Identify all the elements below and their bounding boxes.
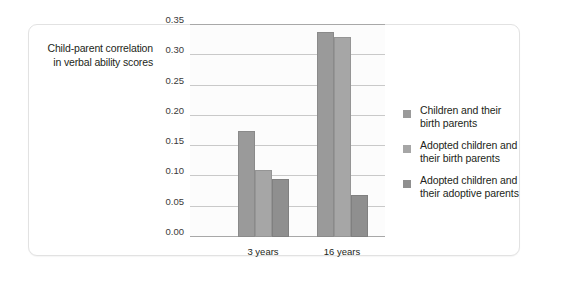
y-axis-tick-label: 0.30 [166, 45, 185, 55]
x-axis-tick-label: 16 years [317, 246, 368, 257]
bar-group: 3 years [238, 25, 289, 237]
bar [317, 32, 334, 237]
y-axis-tick-label: 0.35 [166, 15, 185, 25]
bar [238, 131, 255, 237]
legend-label: their birth parents [420, 152, 543, 165]
legend-swatch-icon [403, 145, 411, 153]
legend-item: Adopted children andtheir birth parents [403, 139, 543, 165]
bar [255, 170, 272, 237]
y-axis-tick-label: 0.05 [166, 197, 185, 207]
plot-area: 0.000.050.100.150.200.250.300.353 years1… [190, 24, 385, 237]
plot-inner: 0.000.050.100.150.200.250.300.353 years1… [190, 25, 385, 237]
bar [272, 179, 289, 237]
y-axis-label-line-1: Child-parent correlation [10, 41, 153, 55]
legend-item: Adopted children andtheir adoptive paren… [403, 174, 543, 200]
legend-swatch-icon [403, 180, 411, 188]
y-axis-tick-label: 0.15 [166, 136, 185, 146]
y-axis-tick-label: 0.00 [166, 227, 185, 237]
legend-item: Children and theirbirth parents [403, 104, 543, 130]
y-axis-label-line-2: in verbal ability scores [10, 55, 153, 69]
chart-legend: Children and theirbirth parentsAdopted c… [403, 104, 543, 209]
bar [351, 195, 368, 237]
legend-label: Children and their [420, 104, 543, 117]
bar [334, 37, 351, 237]
y-axis-tick-label: 0.25 [166, 76, 185, 86]
legend-label: Adopted children and [420, 139, 543, 152]
x-axis-tick-label: 3 years [238, 246, 289, 257]
legend-swatch-icon [403, 110, 411, 118]
bar-group: 16 years [317, 25, 368, 237]
y-axis-label: Child-parent correlation in verbal abili… [10, 41, 153, 69]
figure-root: Child-parent correlation in verbal abili… [0, 0, 561, 281]
legend-label: Adopted children and [420, 174, 543, 187]
legend-label: birth parents [420, 117, 543, 130]
y-axis-tick-label: 0.10 [166, 166, 185, 176]
y-axis-tick-label: 0.20 [166, 106, 185, 116]
legend-label: their adoptive parents [420, 187, 543, 200]
